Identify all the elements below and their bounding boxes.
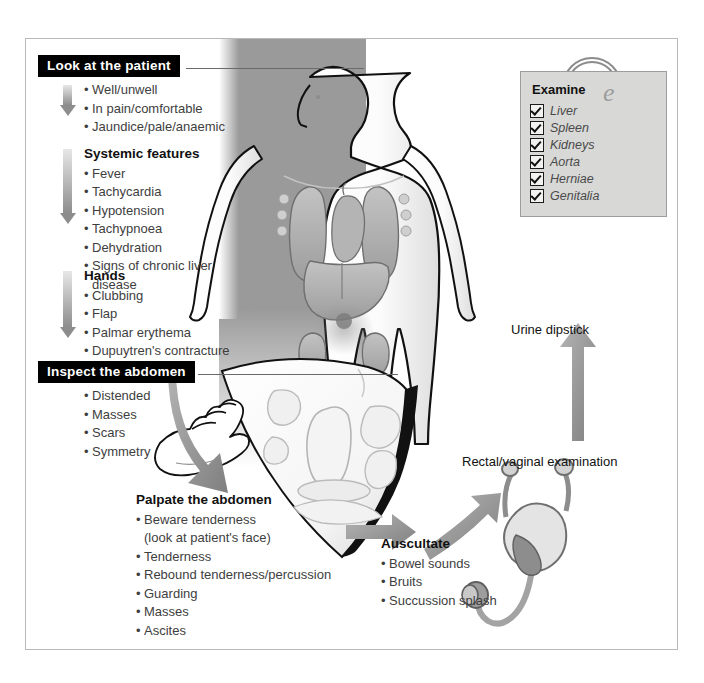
checklist-label: Liver (550, 104, 577, 118)
list-item: Bowel sounds (389, 556, 470, 571)
examine-title: Examine (532, 82, 585, 97)
list-item: Dupuytren's contracture (92, 343, 230, 358)
checkbox-kidneys[interactable] (530, 138, 544, 152)
list-item: Jaundice/pale/anaemic (92, 119, 225, 134)
list-item: Guarding (144, 586, 197, 601)
checklist-row[interactable]: Kidneys (530, 136, 599, 153)
checkbox-herniae[interactable] (530, 172, 544, 186)
checklist-row[interactable]: Herniae (530, 170, 599, 187)
list-item: Succussion splash (389, 593, 497, 608)
arrow-to-urine-dipstick (560, 323, 596, 441)
checkbox-genitalia[interactable] (530, 189, 544, 203)
leader-line-inspect (198, 374, 398, 375)
diagram-frame: Look at the patient Well/unwell In pain/… (25, 38, 678, 650)
examine-checklist-box: e Examine Liver Spleen Kidneys Aorta Her… (520, 71, 667, 217)
list-item: Masses (92, 407, 137, 422)
heading-systemic-features: Systemic features (84, 145, 212, 164)
list-item: Symmetry (92, 444, 151, 459)
arrow-down-hands (59, 271, 76, 338)
list-inspect-abdomen: Distended Masses Scars Symmetry (84, 387, 151, 461)
list-item: Well/unwell (92, 82, 158, 97)
checkbox-spleen[interactable] (530, 121, 544, 135)
list-look-at-patient: Well/unwell In pain/comfortable Jaundice… (84, 81, 225, 137)
checklist-label: Kidneys (550, 138, 594, 152)
leader-line-look (186, 68, 364, 69)
list-item: Clubbing (92, 288, 143, 303)
list-item: In pain/comfortable (92, 101, 203, 116)
list-item: Ascites (144, 623, 186, 638)
list-item: Tenderness (144, 549, 211, 564)
list-auscultate: Auscultate Bowel sounds Bruits Succussio… (381, 535, 497, 610)
label-rectal-vaginal-exam: Rectal/vaginal examination (462, 454, 617, 469)
checklist-label: Genitalia (550, 189, 599, 203)
list-item: Scars (92, 425, 125, 440)
checklist-label: Spleen (550, 121, 589, 135)
arrow-down-look (59, 85, 76, 116)
checklist-row[interactable]: Spleen (530, 119, 599, 136)
list-item: Tachypnoea (92, 221, 162, 236)
checklist-row[interactable]: Genitalia (530, 187, 599, 204)
checkbox-liver[interactable] (530, 104, 544, 118)
checkbox-aorta[interactable] (530, 155, 544, 169)
list-item: Masses (144, 604, 189, 619)
list-item: Rebound tenderness/percussion (144, 567, 331, 582)
checklist-label: Aorta (550, 155, 580, 169)
heading-palpate-abdomen: Palpate the abdomen (136, 491, 331, 510)
list-item: Bruits (389, 574, 422, 589)
heading-hands: Hands (84, 267, 230, 286)
list-item: Dehydration (92, 240, 162, 255)
checklist-label: Herniae (550, 172, 594, 186)
label-urine-dipstick: Urine dipstick (511, 322, 589, 337)
list-item: Palmar erythema (92, 325, 191, 340)
checklist-row[interactable]: Aorta (530, 153, 599, 170)
list-hands: Hands Clubbing Flap Palmar erythema Dupu… (84, 267, 230, 361)
arrow-down-systemic (59, 149, 76, 224)
list-palpate-abdomen: Palpate the abdomen Beware tenderness (l… (136, 491, 331, 640)
list-item: Fever (92, 166, 125, 181)
list-item: Flap (92, 306, 117, 321)
header-inspect-abdomen: Inspect the abdomen (38, 361, 195, 383)
examine-checklist: Liver Spleen Kidneys Aorta Herniae Genit… (530, 102, 599, 204)
heading-auscultate: Auscultate (381, 535, 497, 554)
checklist-row[interactable]: Liver (530, 102, 599, 119)
list-item: Tachycardia (92, 184, 161, 199)
ghost-letter-e: e (603, 78, 615, 108)
list-item: Beware tenderness (144, 512, 256, 527)
list-item-note: (look at patient's face) (136, 529, 331, 548)
list-item: Hypotension (92, 203, 164, 218)
list-item: Distended (92, 388, 151, 403)
header-look-at-patient: Look at the patient (38, 55, 180, 77)
